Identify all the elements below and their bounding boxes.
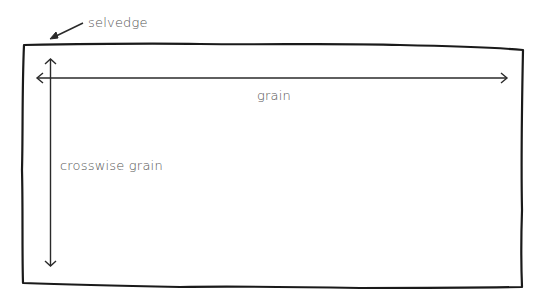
grain-label: grain (257, 88, 291, 103)
crosswise-grain-label: crosswise grain (60, 158, 163, 173)
arrowhead-pointer-icon (50, 32, 58, 39)
fabric-grain-diagram (0, 0, 545, 301)
selvedge-pointer-arrow (50, 23, 83, 39)
selvedge-label: selvedge (88, 15, 148, 30)
grain-arrow (37, 73, 507, 83)
crosswise-grain-arrow (45, 59, 56, 266)
